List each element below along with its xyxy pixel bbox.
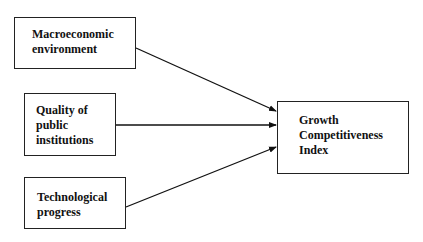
label-line: environment <box>32 42 114 57</box>
quality-public-institutions-label: Quality of public institutions <box>36 103 93 148</box>
arrow-tech-to-gci <box>126 147 276 207</box>
label-line: Competitiveness <box>299 128 383 143</box>
label-line: Technological <box>37 190 107 205</box>
label-line: public <box>36 118 93 133</box>
macroeconomic-environment-box: Macroeconomic environment <box>14 17 136 69</box>
macroeconomic-environment-label: Macroeconomic environment <box>32 27 114 57</box>
label-line: Macroeconomic <box>32 27 114 42</box>
technological-progress-box: Technological progress <box>24 177 126 229</box>
technological-progress-label: Technological progress <box>37 190 107 220</box>
quality-public-institutions-box: Quality of public institutions <box>24 93 116 156</box>
label-line: progress <box>37 205 107 220</box>
growth-competitiveness-index-box: Growth Competitiveness Index <box>277 101 409 174</box>
label-line: Growth <box>299 113 383 128</box>
growth-competitiveness-index-label: Growth Competitiveness Index <box>299 113 383 158</box>
label-line: Quality of <box>36 103 93 118</box>
label-line: Index <box>299 143 383 158</box>
label-line: institutions <box>36 133 93 148</box>
arrow-macro-to-gci <box>136 48 276 111</box>
